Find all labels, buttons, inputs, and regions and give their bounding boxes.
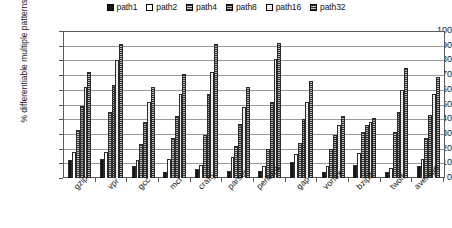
legend-item-path16[interactable]: path16 xyxy=(266,3,301,12)
bar-path32-twolf[interactable] xyxy=(404,68,408,178)
x-label-cell: parser xyxy=(222,183,254,228)
bar-groups xyxy=(64,32,444,178)
x-label-cell: crafty xyxy=(191,183,223,228)
bar-path32-perlbmk[interactable] xyxy=(277,43,281,178)
x-tick-mark xyxy=(443,178,444,182)
legend-swatch-icon xyxy=(146,4,153,11)
legend-item-label: path4 xyxy=(196,3,217,12)
x-axis-labels: gzipvprgccmcfcraftyparserperlbmkgapvorte… xyxy=(64,183,444,228)
bar-group-average xyxy=(412,32,444,178)
bar-chart: path1path2path4path8path16path32 % diffe… xyxy=(0,0,452,228)
y-axis-title: % differentiable multiple patterns xyxy=(19,0,29,137)
x-label-cell: mcf xyxy=(159,183,191,228)
legend-item-label: path8 xyxy=(236,3,257,12)
legend-swatch-icon xyxy=(107,4,114,11)
x-label-cell: gcc xyxy=(127,183,159,228)
legend-swatch-icon xyxy=(310,4,317,11)
bar-path32-gcc[interactable] xyxy=(151,87,155,178)
bar-path32-average[interactable] xyxy=(436,77,440,178)
bar-path32-parser[interactable] xyxy=(246,87,250,178)
chart-legend: path1path2path4path8path16path32 xyxy=(0,3,452,12)
bar-path32-vortex[interactable] xyxy=(341,116,345,178)
bar-group-vortex xyxy=(317,32,349,178)
bar-path32-bzip2[interactable] xyxy=(372,118,376,178)
y-tick-mark xyxy=(59,178,63,179)
x-label-cell: twolf xyxy=(381,183,413,228)
x-label-cell: gap xyxy=(286,183,318,228)
legend-item-label: path1 xyxy=(117,3,138,12)
x-label-cell: average xyxy=(412,183,444,228)
bar-group-mcf xyxy=(159,32,191,178)
x-label-cell: vpr xyxy=(96,183,128,228)
bar-path32-gzip[interactable] xyxy=(87,72,91,178)
legend-item-path1[interactable]: path1 xyxy=(107,3,138,12)
legend-item-path2[interactable]: path2 xyxy=(146,3,177,12)
bar-group-crafty xyxy=(191,32,223,178)
legend-item-label: path32 xyxy=(320,3,345,12)
legend-swatch-icon xyxy=(266,4,273,11)
bar-path32-gap[interactable] xyxy=(309,81,313,178)
bar-group-gcc xyxy=(127,32,159,178)
x-label-cell: vortex xyxy=(317,183,349,228)
legend-item-path32[interactable]: path32 xyxy=(310,3,345,12)
legend-item-path8[interactable]: path8 xyxy=(226,3,257,12)
legend-item-label: path16 xyxy=(276,3,301,12)
bar-group-bzip2 xyxy=(349,32,381,178)
bar-group-perlbmk xyxy=(254,32,286,178)
x-label-cell: bzip2 xyxy=(349,183,381,228)
bar-group-gzip xyxy=(64,32,96,178)
bar-group-twolf xyxy=(381,32,413,178)
bar-path32-crafty[interactable] xyxy=(214,44,218,178)
legend-item-path4[interactable]: path4 xyxy=(186,3,217,12)
x-label-cell: perlbmk xyxy=(254,183,286,228)
bar-group-parser xyxy=(222,32,254,178)
bar-path32-mcf[interactable] xyxy=(182,74,186,178)
bar-group-vpr xyxy=(96,32,128,178)
bar-group-gap xyxy=(286,32,318,178)
bar-path32-vpr[interactable] xyxy=(119,44,123,178)
legend-swatch-icon xyxy=(226,4,233,11)
x-label-cell: gzip xyxy=(64,183,96,228)
legend-item-label: path2 xyxy=(156,3,177,12)
legend-swatch-icon xyxy=(186,4,193,11)
